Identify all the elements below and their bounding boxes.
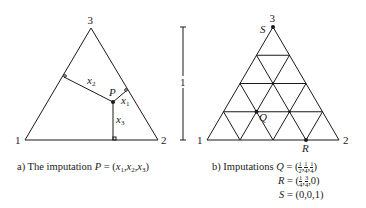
caption-a-eq: = ( (101, 161, 116, 172)
caption-q-label: Q (276, 161, 284, 172)
caption-b-prefix: b) Imputations (212, 161, 276, 172)
caption-b-line-r: R = (14,34,0) (278, 174, 320, 188)
caption-a: a) The imputation P = (x1,x2,x3) (17, 160, 149, 173)
vertex-1-label: 1 (15, 134, 21, 146)
x2-label: x2 (86, 74, 96, 88)
caption-r-eq: = ( (284, 175, 299, 186)
point-q-label: Q (259, 111, 267, 123)
point-r-label: R (301, 142, 309, 154)
caption-a-close: ) (146, 161, 150, 172)
close-paren: ) (316, 175, 320, 186)
grid-node (288, 110, 291, 113)
point-p-label: P (108, 86, 116, 98)
vertex-3-label: 3 (88, 14, 94, 26)
point-p (111, 100, 115, 104)
close-paren: ) (313, 161, 317, 172)
point-s (271, 25, 275, 29)
x3-label: x3 (115, 113, 125, 127)
caption-b-line-q: b) Imputations Q = (12,14,14) (212, 160, 317, 174)
vertex-3-label-b: 3 (270, 12, 276, 24)
x1-label: x1 (120, 94, 130, 108)
vertex-2-label: 2 (161, 134, 167, 146)
vertex-2-label-b: 2 (343, 134, 349, 146)
caption-a-prefix: a) The imputation (17, 161, 95, 172)
caption-s-eq: = (0,0,1) (284, 189, 323, 200)
vertex-1-label-b: 1 (197, 134, 203, 146)
point-s-label: S (260, 23, 266, 35)
caption-q-eq: = ( (284, 161, 299, 172)
grid-node (272, 82, 275, 85)
caption-b-line-s: S = (0,0,1) (279, 188, 323, 201)
scale-bar-label: 1 (180, 76, 186, 88)
point-q (255, 110, 259, 114)
